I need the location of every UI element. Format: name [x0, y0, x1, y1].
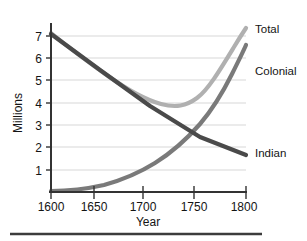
series-line-total — [51, 28, 246, 106]
x-tick-label-1650: 1650 — [81, 200, 108, 214]
y-tick-label-1: 1 — [35, 164, 42, 178]
x-axis-title: Year — [136, 215, 160, 229]
y-tick-label-7: 7 — [35, 30, 42, 44]
y-axis-tick-labels: 7 6 5 4 3 2 1 — [35, 30, 42, 178]
x-tick-label-1800: 1800 — [231, 200, 258, 214]
series-label-indian: Indian — [255, 147, 286, 159]
y-tick-label-5: 5 — [35, 74, 42, 88]
y-axis-title: Millions — [11, 93, 25, 133]
y-tick-label-3: 3 — [35, 119, 42, 133]
x-tick-label-1750: 1750 — [181, 200, 208, 214]
series-label-colonial: Colonial — [255, 65, 297, 77]
chart-plot-area: 7 6 5 4 3 2 1 1600 1650 1700 1750 1800 Y… — [0, 0, 307, 241]
y-tick-label-2: 2 — [35, 141, 42, 155]
x-axis-tick-labels: 1600 1650 1700 1750 1800 — [38, 200, 258, 214]
series-label-total: Total — [255, 23, 279, 35]
x-tick-label-1600: 1600 — [38, 200, 65, 214]
x-tick-label-1700: 1700 — [130, 200, 157, 214]
series-line-colonial — [51, 45, 246, 191]
population-line-chart: 7 6 5 4 3 2 1 1600 1650 1700 1750 1800 Y… — [0, 0, 307, 241]
series-line-indian — [51, 34, 246, 155]
y-tick-label-4: 4 — [35, 97, 42, 111]
y-tick-label-6: 6 — [35, 52, 42, 66]
